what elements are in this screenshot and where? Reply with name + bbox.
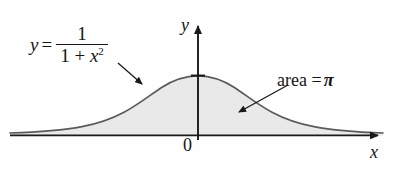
area-annotation-text: area = (277, 70, 322, 90)
area-annotation-label: area =π (277, 71, 333, 89)
origin-label: 0 (183, 136, 192, 154)
denominator-exponent: 2 (98, 45, 104, 57)
fraction-denominator: 1 + x2 (56, 45, 108, 65)
x-axis-label: x (370, 143, 378, 161)
equation-fraction: 1 1 + x2 (56, 24, 108, 65)
pi-symbol: π (322, 70, 334, 90)
y-axis-label: y (181, 16, 189, 34)
denominator-prefix: 1 + (60, 45, 85, 66)
equation-lhs: y (30, 35, 38, 54)
equation-callout-arrow (118, 63, 142, 84)
math-figure: y = 1 1 + x2 area =π y x 0 (0, 0, 399, 185)
equation-equals-sign: = (41, 35, 52, 54)
equation-label: y = 1 1 + x2 (30, 24, 108, 65)
fraction-numerator: 1 (71, 24, 93, 44)
